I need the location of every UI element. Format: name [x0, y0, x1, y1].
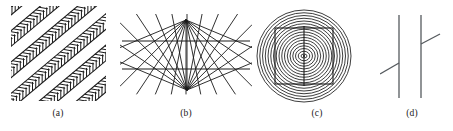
panel-a-caption: (a) [23, 108, 93, 118]
illusion-figure: (a) (b) (c) (d) [0, 0, 453, 131]
panel-b-hering-illusion [120, 14, 252, 96]
panel-b-caption: (b) [151, 108, 221, 118]
panel-d-caption: (d) [377, 108, 447, 118]
zollner-illusion-svg [11, 6, 106, 101]
poggendorff-oblique-line-group [380, 34, 440, 74]
poggendorff-vertical-line-group [399, 15, 421, 98]
ehrenstein-illusion-svg [253, 6, 355, 106]
hering-ray-group [120, 14, 252, 94]
zollner-line-group [11, 6, 106, 101]
panel-c-ehrenstein-illusion [253, 6, 355, 106]
panel-d-poggendorff-illusion [380, 12, 442, 102]
panel-c-caption: (c) [282, 108, 352, 118]
hering-illusion-svg [120, 14, 252, 96]
poggendorff-illusion-svg [380, 12, 442, 102]
panel-a-zollner-illusion [11, 6, 106, 101]
